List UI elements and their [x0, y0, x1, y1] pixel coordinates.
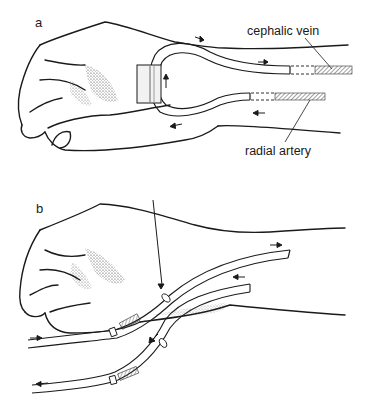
panel-letter-b: b — [36, 202, 43, 215]
arrow-right-icon — [195, 36, 204, 42]
panel-a: a cephalic vein radial artery — [0, 0, 365, 200]
label-cephalic-vein: cephalic vein — [247, 25, 319, 38]
artery-leader-line — [285, 100, 310, 142]
arrow-left-icon — [253, 111, 265, 116]
hand-outline — [18, 22, 348, 151]
venous-cannula — [32, 284, 250, 393]
shunt-clamp — [137, 65, 161, 103]
radial-artery-segment — [275, 93, 325, 100]
arrow-up-right-icon — [153, 200, 164, 289]
arrow-left-icon — [233, 275, 245, 280]
arrow-up-icon — [164, 74, 169, 88]
flow-arrows — [164, 36, 269, 129]
panel-letter-a: a — [35, 16, 42, 29]
palm-shading — [85, 65, 118, 102]
arrow-down-left-icon — [149, 334, 158, 343]
arrow-right-icon — [270, 243, 282, 248]
finger-shading — [70, 262, 92, 289]
panel-b-illustration — [0, 200, 365, 413]
arrow-right-icon — [258, 60, 268, 65]
cephalic-vein-segment — [315, 66, 352, 74]
vein-leader-line — [305, 38, 332, 69]
palm-shading — [85, 248, 125, 284]
wrist-shading — [150, 303, 226, 315]
panel-b: b — [0, 200, 365, 413]
arterial-segment — [119, 314, 140, 330]
arrow-left-icon — [170, 123, 182, 129]
label-radial-artery: radial artery — [245, 145, 311, 158]
finger-shading — [70, 80, 92, 106]
